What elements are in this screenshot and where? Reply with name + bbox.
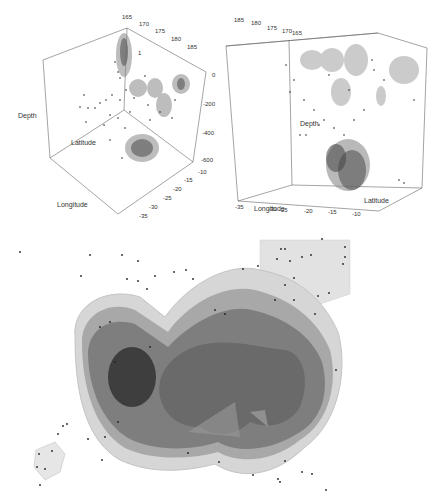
svg-text:165: 165 xyxy=(122,14,133,20)
svg-text:-20: -20 xyxy=(173,186,182,192)
lat-ticks: -10 -15 -20 -25 -30 -35 xyxy=(139,169,207,219)
lon-ticks: 185 180 175 170 165 xyxy=(234,17,303,36)
svg-text:-600: -600 xyxy=(201,157,214,163)
density-blobs xyxy=(300,44,419,106)
svg-text:180: 180 xyxy=(251,20,262,26)
svg-text:-200: -200 xyxy=(203,101,216,107)
svg-text:-10: -10 xyxy=(352,211,361,217)
svg-text:175: 175 xyxy=(267,25,278,31)
longitude-axis-label: Longitude xyxy=(57,201,88,209)
svg-text:-35: -35 xyxy=(139,213,148,219)
latitude-axis-label: Latitude xyxy=(71,139,96,146)
svg-text:165: 165 xyxy=(292,30,303,36)
svg-text:-25: -25 xyxy=(163,195,172,201)
svg-text:-400: -400 xyxy=(202,130,215,136)
svg-text:-35: -35 xyxy=(235,204,244,210)
panel-3d-scatter-a: 165 170 175 180 185 0 -200 -400 -600 -10… xyxy=(0,0,224,236)
svg-text:-30: -30 xyxy=(149,204,158,210)
svg-text:185: 185 xyxy=(234,17,245,23)
svg-text:175: 175 xyxy=(155,28,166,34)
latitude-axis-label: Latitude xyxy=(364,197,389,204)
panel-isosurface-zoom xyxy=(0,232,448,502)
depth-axis-label: Depth xyxy=(18,112,37,120)
svg-text:185: 185 xyxy=(187,44,198,50)
svg-text:0: 0 xyxy=(212,72,216,78)
svg-text:-10: -10 xyxy=(198,169,207,175)
lon-ticks: 165 170 175 180 185 xyxy=(122,14,198,50)
plot-3d-b: 185 180 175 170 165 -35 -30 -25 -20 -15 … xyxy=(224,0,448,236)
marker-label: 1 xyxy=(138,50,142,56)
isosurface-core-left xyxy=(108,347,156,407)
svg-text:-15: -15 xyxy=(328,209,337,215)
depth-ticks: 0 -200 -400 -600 xyxy=(201,72,216,163)
svg-text:-15: -15 xyxy=(184,177,193,183)
plot-3d-a: 165 170 175 180 185 0 -200 -400 -600 -10… xyxy=(0,0,224,236)
svg-text:-20: -20 xyxy=(304,208,313,214)
small-outlier-blob xyxy=(34,442,65,480)
longitude-axis-label: Longitude xyxy=(254,205,285,213)
svg-text:180: 180 xyxy=(171,36,182,42)
depth-axis-label: Depth xyxy=(300,120,319,128)
isosurface-plot xyxy=(0,232,448,502)
svg-text:170: 170 xyxy=(139,21,150,27)
panel-3d-scatter-b: 185 180 175 170 165 -35 -30 -25 -20 -15 … xyxy=(224,0,448,236)
density-large xyxy=(326,139,370,191)
